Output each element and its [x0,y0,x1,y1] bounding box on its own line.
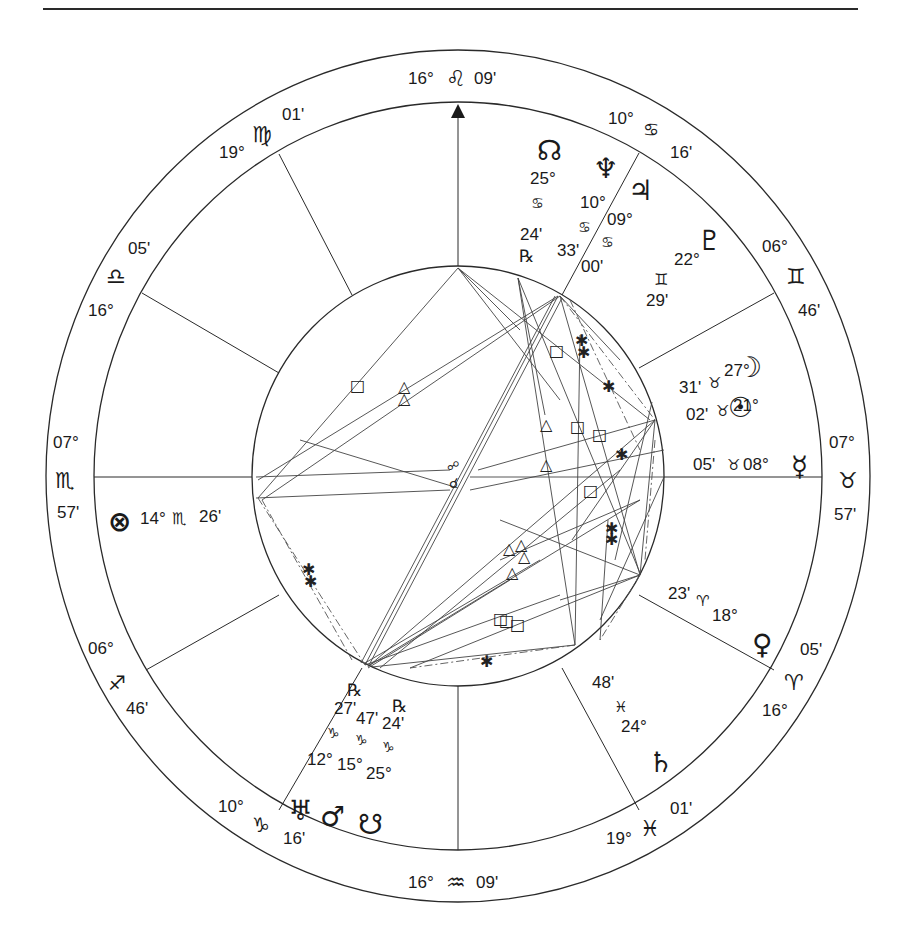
leo-icon: ♌ [446,66,466,91]
aquarius-icon: ♒ [446,870,466,895]
gemini-icon: ♊ [654,270,668,289]
position-label: 31' [679,378,701,397]
mars-icon: ♂ [320,800,345,833]
cusp-2 [146,595,279,670]
cusp-8 [142,293,279,373]
position-label: 16' [283,829,305,848]
aspect-line [470,450,664,490]
gemini-icon: ♊ [786,264,806,289]
sextile-icon: ✱ [605,530,618,549]
position-label: 48' [592,673,614,692]
position-label: 33' [557,241,579,260]
aspect-line [458,268,520,330]
cancer-icon: ♋ [531,195,544,211]
position-label: 22° [674,250,700,269]
aspect-line [370,500,640,665]
scorpio-icon: ♏ [172,509,186,528]
scorpio-icon: ♏ [55,468,75,493]
position-label: 46' [126,699,148,718]
position-label: 25° [530,169,556,188]
sextile-icon: ✱ [577,343,590,362]
square-icon: □ [549,341,564,360]
position-label: 16° [408,69,434,88]
position-label: 25° [366,764,392,783]
position-label: 27' [334,699,356,718]
opposition-icon: ☍ [447,459,459,473]
retrograde-icon: ℞ [347,681,362,700]
position-label: 15° [337,755,363,774]
aspect-line [478,420,655,470]
aspect-line [575,335,580,645]
position-label: 00' [581,257,603,276]
position-label: 26' [199,507,221,526]
position-label: 09' [476,873,498,892]
position-label: 05' [693,455,715,474]
position-label: 16° [408,873,434,892]
position-label: 07° [53,433,79,452]
position-label: 12° [307,750,333,769]
aspect-line [518,278,545,415]
aspect-line [256,470,450,477]
position-label: 57' [57,503,79,522]
position-label: 57' [834,505,856,524]
conjunction-cluster-icon: ☌ [449,475,458,491]
position-label: 23' [668,584,690,603]
jupiter-icon: ♃ [628,174,653,207]
trine-icon: △ [506,563,519,582]
natal-chart-wheel: □ △ △ □ ✱ ✱ ✱ △ □ □ △ ✱ □ ✱ ✱ △ △ △ △ □ … [0,0,909,947]
sagittarius-icon: ♐ [108,671,126,695]
south-node-icon: ☋ [358,808,383,841]
position-label: 24° [621,717,647,736]
mercury-icon: ☿ [791,450,808,483]
neptune-icon: ♆ [593,152,618,185]
cancer-icon: ♋ [578,219,591,235]
sextile-icon: ✱ [615,445,628,464]
trine-icon: △ [540,455,553,474]
position-label: 14° [140,509,166,528]
aspect-line [372,645,575,667]
position-label: 10° [580,193,606,212]
pisces-icon: ♓ [614,698,627,716]
position-label: 08° [743,455,769,474]
cusp-9 [279,154,352,295]
capricorn-icon: ♑ [382,739,395,755]
cancer-icon: ♋ [643,119,659,140]
square-icon: □ [570,417,585,436]
sextile-icon: ✱ [304,572,317,591]
capricorn-icon: ♑ [355,732,368,748]
position-label: 16' [670,143,692,162]
position-label: 10° [608,109,634,128]
aspect-line [300,440,458,488]
position-label: 46' [798,301,820,320]
position-label: 27° [724,361,750,380]
position-label: 09° [607,210,633,229]
aspect-line [262,296,560,500]
part-of-fortune-icon: ⊗ [108,505,131,538]
venus-icon: ♀ [752,628,773,661]
aspect-line [256,490,450,498]
trine-icon: △ [540,415,553,434]
position-label: 18° [712,606,738,625]
position-label: 01' [670,799,692,818]
position-label: 29' [646,291,668,310]
position-label: 19° [606,829,632,848]
position-label: 06° [762,237,788,256]
uranus-icon: ♅ [288,794,313,827]
sextile-icon: ✱ [602,377,615,396]
taurus-icon: ♉ [708,374,721,392]
position-label: 16° [762,701,788,720]
retrograde-icon: ℞ [519,247,534,266]
capricorn-icon: ♑ [252,813,270,837]
position-label: 19° [219,143,245,162]
libra-icon: ♎ [106,264,126,289]
trine-icon: △ [518,547,531,566]
position-label: 24' [382,714,404,733]
position-label: 47' [356,709,378,728]
taurus-icon: ♉ [716,402,729,420]
position-label: 07° [829,433,855,452]
position-label: 16° [88,301,114,320]
pisces-icon: ♓ [640,816,660,841]
position-label: 01' [282,105,304,124]
mc-arrow-icon [451,104,465,118]
aries-icon: ♈ [696,592,709,610]
